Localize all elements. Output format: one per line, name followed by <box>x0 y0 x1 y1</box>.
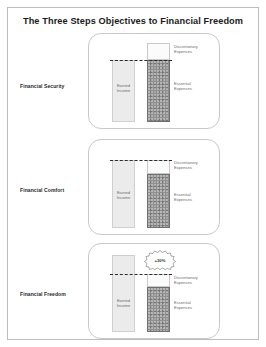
bar-discretionary-expenses <box>147 160 170 174</box>
card-financial-freedom: Earned Income Essential Expenses Discret… <box>88 243 220 339</box>
bar-discretionary-expenses <box>147 274 170 287</box>
label-essential-expenses: Essential Expenses <box>174 81 220 92</box>
surplus-badge-label: +30% <box>144 250 176 270</box>
row-label-financial-comfort: Financial Comfort <box>20 187 64 193</box>
income-reference-line <box>110 160 172 161</box>
bar-earned-income <box>112 255 135 332</box>
label-essential-expenses: Essential Expenses <box>174 300 220 311</box>
row-label-financial-security: Financial Security <box>20 83 65 89</box>
plot-financial-security: Earned Income Essential Expenses Discret… <box>89 34 221 130</box>
label-essential-expenses: Essential Expenses <box>174 192 220 203</box>
plot-financial-comfort: Earned Income Essential Expenses Discret… <box>89 140 221 236</box>
surplus-badge: +30% <box>144 250 176 270</box>
bar-discretionary-expenses <box>147 43 170 60</box>
bar-essential-expenses <box>147 174 170 228</box>
label-earned-income: Earned Income <box>102 83 145 94</box>
bar-essential-expenses <box>147 287 170 332</box>
income-reference-line <box>110 60 172 61</box>
label-discretionary-expenses: Discretionary Expenses <box>174 275 222 286</box>
page-title: The Three Steps Objectives to Financial … <box>0 16 266 26</box>
card-financial-security: Earned Income Essential Expenses Discret… <box>88 33 220 129</box>
row-label-financial-freedom: Financial Freedom <box>20 291 66 297</box>
income-reference-line <box>110 274 172 275</box>
bar-essential-expenses <box>147 60 170 122</box>
plot-financial-freedom: Earned Income Essential Expenses Discret… <box>89 244 221 340</box>
label-discretionary-expenses: Discretionary Expenses <box>174 160 222 171</box>
page-root: The Three Steps Objectives to Financial … <box>0 0 266 347</box>
label-earned-income: Earned Income <box>102 298 145 309</box>
label-earned-income: Earned Income <box>102 190 145 201</box>
card-financial-comfort: Earned Income Essential Expenses Discret… <box>88 139 220 235</box>
label-discretionary-expenses: Discretionary Expenses <box>174 44 222 55</box>
